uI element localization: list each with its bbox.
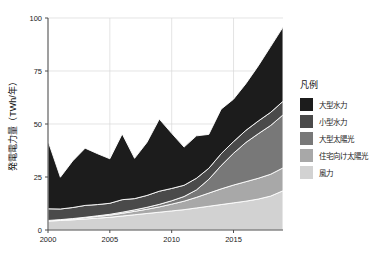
legend-swatch [300,132,313,145]
y-tick-label: 50 [34,120,42,129]
x-tick-label: 2000 [40,235,57,244]
legend-label: 大型太陽光 [319,134,355,144]
legend-swatch [300,98,313,111]
y-tick-label: 0 [38,226,42,235]
y-tick-label: 75 [34,67,42,76]
y-tick-label: 25 [34,173,42,182]
stacked-area-chart: 0255075100 2000200520102015 発電電力量（TWh/年）… [0,0,384,266]
legend-label: 大型水力 [319,100,347,110]
y-tick-label: 100 [29,14,42,23]
legend-label: 風力 [319,168,333,178]
x-tick-label: 2005 [101,235,118,244]
legend-title: 凡例 [300,79,318,90]
legend-label: 住宅向け太陽光 [319,151,369,161]
legend-label: 小型水力 [319,117,347,127]
y-axis-title: 発電電力量（TWh/年） [7,77,18,171]
legend-swatch [300,115,313,128]
x-tick-label: 2010 [163,235,180,244]
legend-swatch [300,149,313,162]
x-tick-label: 2015 [225,235,242,244]
legend-swatch [300,166,313,179]
chart-container: 0255075100 2000200520102015 発電電力量（TWh/年）… [0,0,384,266]
